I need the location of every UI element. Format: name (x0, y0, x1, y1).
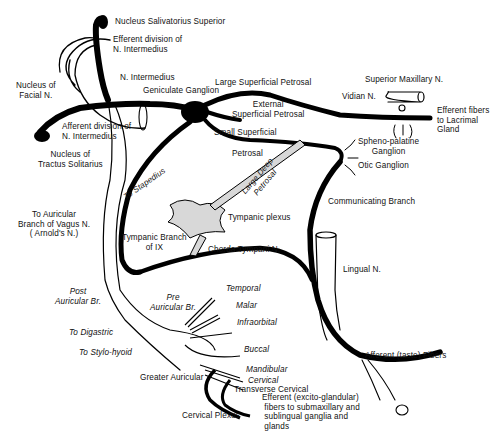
label-efferent-excito: Efferent (excito-glandular) fibers to su… (262, 393, 360, 431)
label-nucleus-facial: Nucleus of Facial N. (16, 81, 56, 100)
facial-branches (185, 298, 250, 418)
label-external-superficial-petrosal: External Superficial Petrosal (232, 100, 305, 119)
label-chorda-tympani: Chorda Tympani N. (208, 245, 280, 255)
label-pre-auricular: Pre Auricular Br. (150, 293, 196, 312)
sphenopalatine-ganglion (399, 105, 405, 111)
label-large-superficial-petrosal: Large Superficial Petrosal (215, 78, 311, 88)
label-n-intermedius: N. Intermedius (120, 73, 175, 83)
nucleus-salivatorius-blob (98, 15, 108, 29)
label-otic-ganglion: Otic Ganglion (358, 161, 409, 171)
superior-maxillary-nerve (386, 92, 420, 103)
label-temporal: Temporal (226, 284, 261, 294)
label-nucleus-tractus: Nucleus of Tractus Solitarius (38, 150, 103, 169)
label-small-superficial: Small Superficial (214, 128, 277, 138)
label-mandibular: Mandibular (246, 365, 288, 375)
small-superficial-petrosal (205, 120, 342, 162)
submandibular-fibers (362, 360, 395, 400)
facial-nerve-diagram: Nucleus Salivatorius Superior Efferent d… (0, 0, 501, 440)
label-malar: Malar (236, 301, 257, 311)
label-to-digastric: To Digastric (69, 328, 113, 338)
branch-malar (190, 315, 220, 333)
label-efferent-division: Efferent division of N. Intermedius (113, 35, 182, 54)
label-greater-auricular: Greater Auricular (140, 373, 204, 383)
label-petrosal: Petrosal (232, 149, 263, 159)
label-geniculate-ganglion: Geniculate Ganglion (143, 86, 219, 96)
label-cervical-plexus: Cervical Plexus (182, 411, 240, 421)
superior-maxillary-end (418, 92, 424, 102)
otic-ganglion-fibers (345, 140, 358, 175)
nucleus-salivatorius-shape (96, 19, 108, 100)
label-to-auricular-vagus: To Auricular Branch of Vagus N. ( Arnold… (18, 210, 90, 239)
label-efferent-lacrimal: Efferent fibers to Lacrimal Gland (437, 106, 489, 135)
submandibular-ganglion (396, 405, 408, 415)
communicating-branch (310, 162, 440, 359)
label-post-auricular: Post Auricular Br. (55, 287, 101, 306)
label-tympanic-plexus: Tympanic plexus (228, 213, 290, 223)
nucleus-tractus-blob (34, 130, 50, 142)
label-tympanic-branch-ix: Tympanic Branch of IX (122, 233, 187, 252)
label-superior-maxillary: Superior Maxillary N. (365, 75, 443, 85)
label-afferent-division: Afferent division of N. Intermedius (62, 122, 131, 141)
label-infraorbital: Infraorbital (237, 318, 277, 328)
label-lingual: Lingual N. (343, 265, 381, 275)
nerve-loop-marker (139, 104, 147, 130)
branch-buccal (185, 345, 240, 357)
lingual-nerve-top (316, 232, 336, 238)
label-vidian: Vidian N. (342, 92, 376, 102)
label-nucleus-salivatorius: Nucleus Salivatorius Superior (115, 17, 225, 27)
label-to-stylohyoid: To Stylo-hyoid (79, 348, 132, 358)
label-communicating-branch: Communicating Branch (328, 197, 415, 207)
label-spheno-palatine: Spheno-palatine Ganglion (358, 137, 419, 156)
label-afferent-taste: Afferent (taste) Fibers (365, 351, 446, 361)
label-buccal: Buccal (244, 345, 269, 355)
